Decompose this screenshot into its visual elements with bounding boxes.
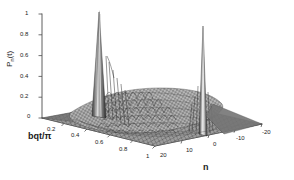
z-tick-10: 10 — [186, 147, 193, 153]
y-tick-0: 0 — [27, 113, 30, 119]
y-tick-04: 0.4 — [20, 73, 28, 79]
y-tick-06: 0.6 — [20, 52, 28, 58]
z-tick-0: 0 — [213, 141, 216, 147]
figure-3d-surface-plot: Pn(t) bqt/π n 1 0.8 0.6 0.4 0.2 0 0.2 0.… — [0, 0, 294, 180]
y-axis-label: Pn(t) — [5, 55, 15, 67]
z-tick-m10: -10 — [236, 135, 245, 141]
x-tick-02: 0.2 — [47, 126, 55, 132]
y-tick-08: 0.8 — [20, 31, 28, 37]
z-axis-label: n — [203, 162, 209, 172]
x-tick-04: 0.4 — [71, 132, 79, 138]
mesh-surface — [42, 10, 262, 146]
y-tick-1: 1 — [25, 10, 28, 16]
x-tick-06: 0.6 — [95, 139, 103, 145]
y-tick-02: 0.2 — [20, 93, 28, 99]
x-tick-1: 1 — [146, 153, 149, 159]
x-axis-label: bqt/π — [28, 131, 51, 141]
z-tick-20: 20 — [160, 152, 167, 158]
x-tick-08: 0.8 — [119, 146, 127, 152]
peak-right — [199, 26, 207, 136]
z-tick-m20: -20 — [262, 129, 271, 135]
